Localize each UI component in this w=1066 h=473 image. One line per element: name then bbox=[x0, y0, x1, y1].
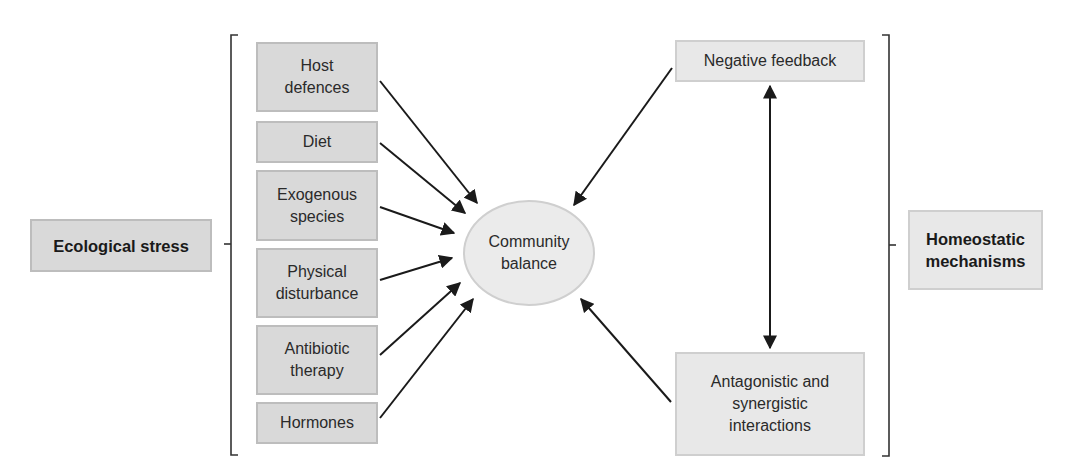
negative-feedback-box: Negative feedback bbox=[675, 40, 865, 82]
hormones-box: Hormones bbox=[256, 402, 378, 444]
ecological-stress-box: Ecological stress bbox=[30, 219, 212, 272]
homeostatic-mechanisms-label: Homeostatic mechanisms bbox=[926, 228, 1026, 272]
arrow-negative-feedback bbox=[574, 68, 672, 205]
arrow-host-defences bbox=[380, 81, 477, 203]
exogenous-species-label: Exogenous species bbox=[277, 184, 357, 228]
physical-disturbance-box: Physical disturbance bbox=[256, 248, 378, 318]
physical-disturbance-label: Physical disturbance bbox=[276, 261, 359, 305]
diet-box: Diet bbox=[256, 121, 378, 163]
arrow-physical-disturbance bbox=[380, 258, 452, 280]
negative-feedback-label: Negative feedback bbox=[704, 50, 837, 72]
diet-label: Diet bbox=[303, 131, 331, 153]
left-bracket bbox=[224, 35, 238, 455]
arrow-diet bbox=[380, 143, 465, 213]
community-balance-node: Community balance bbox=[463, 200, 595, 306]
arrow-antibiotic-therapy bbox=[380, 283, 460, 355]
arrow-antagonistic-interactions bbox=[581, 299, 671, 402]
community-balance-label: Community balance bbox=[489, 231, 570, 275]
right-bracket bbox=[882, 35, 896, 456]
exogenous-species-box: Exogenous species bbox=[256, 170, 378, 241]
hormones-label: Hormones bbox=[280, 412, 354, 434]
antibiotic-therapy-label: Antibiotic therapy bbox=[285, 338, 350, 382]
host-defences-label: Host defences bbox=[285, 55, 350, 99]
antibiotic-therapy-box: Antibiotic therapy bbox=[256, 325, 378, 395]
antagonistic-interactions-box: Antagonistic and synergistic interaction… bbox=[675, 352, 865, 456]
arrow-exogenous-species bbox=[380, 207, 454, 233]
antagonistic-interactions-label: Antagonistic and synergistic interaction… bbox=[711, 371, 829, 437]
ecological-stress-label: Ecological stress bbox=[53, 235, 189, 257]
homeostatic-mechanisms-box: Homeostatic mechanisms bbox=[908, 210, 1043, 290]
arrow-hormones bbox=[380, 299, 473, 418]
host-defences-box: Host defences bbox=[256, 42, 378, 112]
